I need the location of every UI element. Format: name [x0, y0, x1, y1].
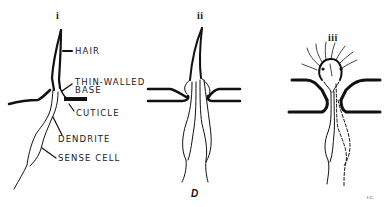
panel-i-numeral: i: [56, 10, 59, 21]
label-base: BASE: [75, 86, 102, 94]
label-dendrite: DENDRITE: [58, 135, 111, 143]
label-hair: HAIR: [75, 47, 100, 55]
label-sense-cell: SENSE CELL: [58, 154, 120, 162]
figure-label: D: [191, 188, 198, 199]
artist-signature: J.C.: [366, 195, 374, 200]
panel-iii-drawing: [289, 42, 380, 186]
label-cuticle: CUTICLE: [76, 109, 120, 117]
panel-ii-numeral: ii: [197, 10, 204, 21]
panel-ii-drawing: [148, 28, 240, 182]
panel-iii-numeral: iii: [328, 32, 338, 43]
